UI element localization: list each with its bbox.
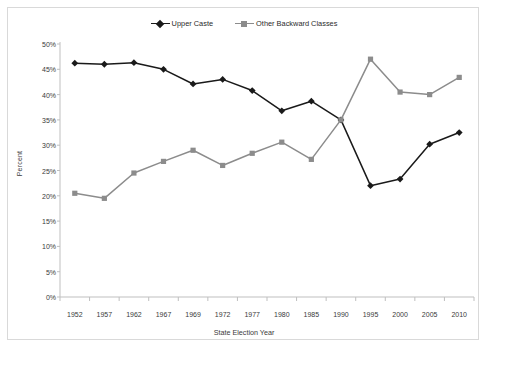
series-upper-caste	[71, 59, 462, 189]
data-point-marker	[190, 148, 195, 153]
data-point-marker	[72, 191, 77, 196]
data-point-marker	[309, 157, 314, 162]
data-point-marker	[338, 117, 343, 122]
data-point-marker	[427, 92, 432, 97]
chart-frame: Upper Caste Other Backward Classes Perce…	[7, 7, 479, 340]
data-point-marker	[131, 59, 138, 66]
data-point-marker	[279, 140, 284, 145]
data-point-marker	[219, 76, 226, 83]
data-point-marker	[71, 60, 78, 67]
data-point-marker	[457, 75, 462, 80]
data-point-marker	[160, 66, 167, 73]
data-point-marker	[190, 81, 197, 88]
data-point-marker	[250, 151, 255, 156]
data-point-marker	[397, 89, 402, 94]
series-other-backward-classes	[72, 57, 462, 201]
plot-area: Percent State Election Year 0%5%10%15%20…	[8, 8, 480, 341]
data-point-marker	[456, 129, 463, 136]
data-point-marker	[367, 182, 374, 189]
data-point-marker	[131, 170, 136, 175]
data-point-marker	[102, 196, 107, 201]
data-point-marker	[368, 57, 373, 62]
series-line	[75, 63, 459, 186]
data-point-marker	[220, 163, 225, 168]
plot-svg	[8, 8, 480, 341]
data-point-marker	[101, 61, 108, 68]
data-point-marker	[161, 159, 166, 164]
